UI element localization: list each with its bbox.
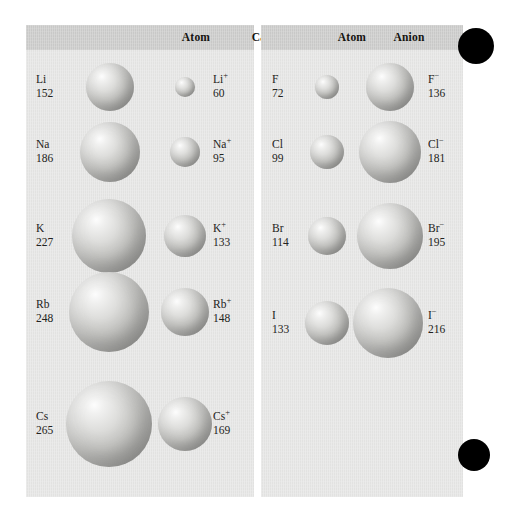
atom-sphere-li <box>86 63 134 111</box>
atom-label-i-symbol: I <box>272 309 289 323</box>
atom-label-li-value: 152 <box>36 87 53 101</box>
cation-sphere-rb <box>161 288 209 336</box>
atom-label-i: I133 <box>272 309 289 336</box>
cation-label-na-value: 95 <box>213 152 231 166</box>
atom-sphere-na <box>80 122 140 182</box>
cation-label-cs-charge: + <box>225 407 230 417</box>
anion-label-br-charge: − <box>440 219 445 229</box>
anion-label-cl: Cl−181 <box>428 138 445 165</box>
cation-label-li-value: 60 <box>213 87 228 101</box>
atom-label-rb: Rb248 <box>36 298 53 325</box>
cation-sphere-na <box>170 137 200 167</box>
atom-label-cl-value: 99 <box>272 152 284 166</box>
atom-label-k: K227 <box>36 222 53 249</box>
anion-label-f-charge: − <box>434 70 439 80</box>
atom-sphere-cl <box>310 135 344 169</box>
anion-sphere-br <box>357 203 423 269</box>
atom-label-li: Li152 <box>36 73 53 100</box>
cation-sphere-k <box>164 215 206 257</box>
atom-sphere-k <box>72 199 146 273</box>
cation-label-cs-value: 169 <box>213 424 230 438</box>
anion-label-cl-value: 181 <box>428 152 445 166</box>
anion-label-f-value: 136 <box>428 87 445 101</box>
anion-label-i: I−216 <box>428 309 445 336</box>
anion-label-cl-charge: − <box>439 135 444 145</box>
atom-label-k-value: 227 <box>36 236 53 250</box>
bottom-right-dot <box>458 439 490 471</box>
atom-label-rb-symbol: Rb <box>36 298 53 312</box>
atom-label-br: Br114 <box>272 222 289 249</box>
atom-label-br-value: 114 <box>272 236 289 250</box>
atom-label-i-value: 133 <box>272 323 289 337</box>
atom-label-cs-value: 265 <box>36 424 53 438</box>
anion-label-br-symbol: Br− <box>428 222 445 236</box>
cation-column-title-atom: Atom <box>156 25 236 50</box>
atom-label-cs: Cs265 <box>36 410 53 437</box>
cation-label-na-charge: + <box>226 135 231 145</box>
cation-label-rb-charge: + <box>226 295 231 305</box>
cation-label-na-symbol: Na+ <box>213 138 231 152</box>
cation-sphere-li <box>175 77 195 97</box>
cation-label-k-charge: + <box>221 219 226 229</box>
anion-label-f: F−136 <box>428 73 445 100</box>
cation-label-li: Li+60 <box>213 73 228 100</box>
atom-label-na-value: 186 <box>36 152 53 166</box>
atom-sphere-rb <box>69 272 149 352</box>
atom-sphere-cs <box>66 381 152 467</box>
atom-sphere-f <box>315 75 339 99</box>
atom-label-li-symbol: Li <box>36 73 53 87</box>
atom-label-na-symbol: Na <box>36 138 53 152</box>
anion-sphere-i <box>353 288 423 358</box>
top-right-dot <box>458 28 494 64</box>
anion-sphere-f <box>366 63 414 111</box>
cation-label-rb-value: 148 <box>213 312 231 326</box>
atom-sphere-br <box>308 217 346 255</box>
atom-label-na: Na186 <box>36 138 53 165</box>
cation-label-k-symbol: K+ <box>213 222 230 236</box>
cation-sphere-cs <box>158 397 212 451</box>
anion-column-title-anion: Anion <box>373 25 445 50</box>
cation-label-k: K+133 <box>213 222 230 249</box>
anion-label-i-charge: − <box>432 306 437 316</box>
cation-label-cs: Cs+169 <box>213 410 230 437</box>
anion-label-cl-symbol: Cl− <box>428 138 445 152</box>
atom-label-k-symbol: K <box>36 222 53 236</box>
cation-label-na: Na+95 <box>213 138 231 165</box>
cation-label-rb: Rb+148 <box>213 298 231 325</box>
atom-label-cs-symbol: Cs <box>36 410 53 424</box>
atom-label-f-value: 72 <box>272 87 284 101</box>
cation-label-li-charge: + <box>223 70 228 80</box>
atom-sphere-i <box>305 301 349 345</box>
anion-label-f-symbol: F− <box>428 73 445 87</box>
cation-label-li-symbol: Li+ <box>213 73 228 87</box>
atom-label-cl-symbol: Cl <box>272 138 284 152</box>
atom-label-f: F72 <box>272 73 284 100</box>
atom-label-f-symbol: F <box>272 73 284 87</box>
radii-figure: AtomCation AtomAnion Li152Li+60Na186Na+9… <box>0 0 509 517</box>
anion-label-br-value: 195 <box>428 236 445 250</box>
atom-label-br-symbol: Br <box>272 222 289 236</box>
atom-label-cl: Cl99 <box>272 138 284 165</box>
atom-label-rb-value: 248 <box>36 312 53 326</box>
anion-label-i-symbol: I− <box>428 309 445 323</box>
anion-sphere-cl <box>359 121 421 183</box>
anion-label-i-value: 216 <box>428 323 445 337</box>
anion-label-br: Br−195 <box>428 222 445 249</box>
cation-label-k-value: 133 <box>213 236 230 250</box>
cation-label-rb-symbol: Rb+ <box>213 298 231 312</box>
cation-label-cs-symbol: Cs+ <box>213 410 230 424</box>
